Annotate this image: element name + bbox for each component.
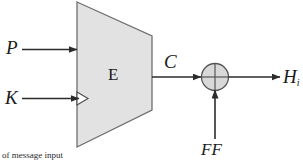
diagram-canvas: P K E C FF Hi of message input — [0, 0, 303, 160]
key-input-label: K — [5, 88, 18, 107]
feedforward-label: FF — [201, 141, 222, 158]
hash-output-label: Hi — [283, 67, 300, 86]
plaintext-input-label: P — [6, 38, 18, 57]
figure-caption: of message input — [2, 150, 63, 160]
hash-output-subscript: i — [297, 77, 300, 88]
diagram-graphics — [0, 0, 303, 160]
cipher-output-label: C — [164, 52, 177, 71]
hash-output-letter: H — [283, 66, 297, 87]
encrypt-block-label: E — [108, 66, 118, 83]
